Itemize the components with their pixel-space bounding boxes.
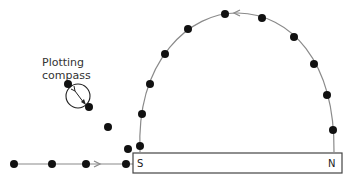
plot-dot [85,103,93,111]
plot-dot [221,10,229,18]
bar-magnet [133,153,342,173]
plot-dot [104,123,112,131]
plot-dot [122,160,130,168]
plot-dot [136,142,144,150]
north-pole-label: N [328,158,335,169]
field-diagram: S N Plotting compass [0,0,351,181]
plot-dot [161,50,169,58]
plot-dot [124,145,132,153]
south-pole-label: S [137,158,143,169]
plot-dot [310,60,318,68]
plot-dot [323,91,331,99]
compass-label-line2: compass [42,69,91,82]
plot-dot [48,160,56,168]
plot-dot [258,14,266,22]
plot-dot [329,126,337,134]
plot-dot [82,160,90,168]
plot-dot [64,80,72,88]
plot-dot [290,33,298,41]
plot-dots [10,10,337,168]
plot-dot [184,25,192,33]
plot-dot [138,110,146,118]
compass-label-line1: Plotting [42,56,84,69]
plot-dot [10,160,18,168]
arc-field-line [140,13,334,152]
plot-dot [146,80,154,88]
